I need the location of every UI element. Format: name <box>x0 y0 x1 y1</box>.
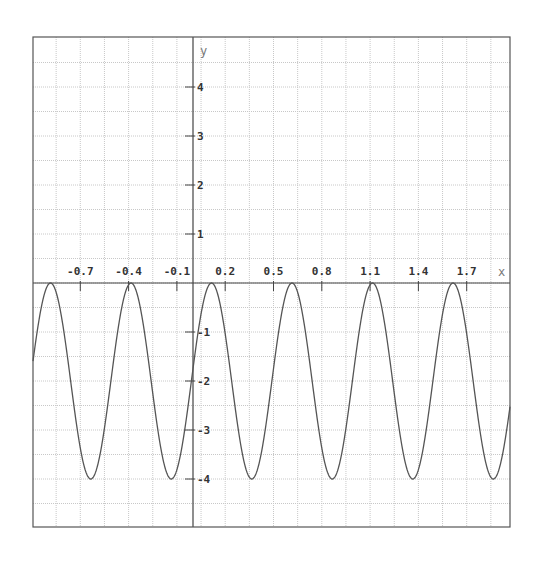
y-tick-label: -4 <box>197 473 211 486</box>
function-plot: -0.7-0.4-0.10.20.50.81.11.41.74321-1-2-3… <box>0 0 542 561</box>
grid-lines <box>33 37 510 527</box>
x-tick-label: 1.1 <box>360 265 380 278</box>
x-tick-label: 0.2 <box>215 265 235 278</box>
y-tick-label: -2 <box>197 375 210 388</box>
y-tick-label: 4 <box>197 81 204 94</box>
y-axis-label: y <box>200 44 207 58</box>
y-tick-label: 3 <box>197 130 204 143</box>
y-tick-label: 2 <box>197 179 204 192</box>
x-tick-label: -0.7 <box>67 265 94 278</box>
x-tick-label: 0.5 <box>264 265 284 278</box>
x-axis-label: x <box>498 265 505 279</box>
x-tick-label: 1.4 <box>408 265 428 278</box>
y-tick-label: 1 <box>197 228 204 241</box>
x-tick-label: 0.8 <box>312 265 332 278</box>
x-tick-label: -0.4 <box>115 265 142 278</box>
x-tick-label: -0.1 <box>164 265 191 278</box>
x-tick-label: 1.7 <box>457 265 477 278</box>
y-tick-label: -3 <box>197 424 210 437</box>
